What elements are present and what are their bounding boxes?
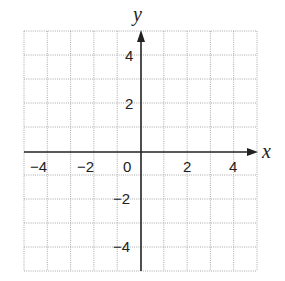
x-tick-label: −4 — [30, 158, 47, 175]
y-axis-arrow-icon — [137, 30, 145, 42]
x-tick-label: 0 — [123, 158, 131, 175]
x-tick-label: 2 — [183, 158, 191, 175]
y-tick-label: −4 — [113, 238, 130, 255]
y-tick-label: 4 — [125, 47, 133, 64]
x-tick-labels: −4 −2 0 2 4 — [30, 158, 237, 175]
y-axis-label: y — [131, 3, 142, 26]
y-axis — [137, 30, 145, 271]
x-axis-arrow-icon — [247, 148, 258, 156]
x-tick-label: 4 — [229, 158, 237, 175]
y-tick-label: 2 — [125, 95, 133, 112]
x-axis-label: x — [261, 140, 271, 162]
y-tick-labels: 4 2 −2 −4 — [113, 47, 133, 255]
y-tick-label: −2 — [113, 190, 130, 207]
coordinate-plane: x y −4 −2 0 2 4 4 2 −2 −4 — [0, 0, 285, 281]
x-tick-label: −2 — [77, 158, 94, 175]
